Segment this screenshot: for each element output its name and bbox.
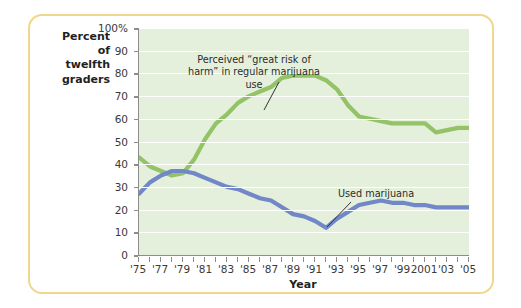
gridline	[139, 119, 469, 120]
x-axis-tick-mark	[281, 257, 282, 262]
x-axis-tick-mark	[391, 257, 392, 262]
x-axis-tick-label: '79	[174, 264, 190, 275]
x-axis-tick-label: '75	[130, 264, 146, 275]
annotation-perceived-risk: Perceived “great risk of harm” in regula…	[178, 54, 330, 91]
x-axis-tick-label: '95	[350, 264, 366, 275]
x-axis-tick-label: '03	[438, 264, 454, 275]
x-axis-tick-label: '89	[284, 264, 300, 275]
gridline	[139, 51, 469, 52]
y-axis-tick-label: 100%	[86, 23, 128, 33]
x-axis-tick-mark	[171, 257, 172, 262]
x-axis-tick-label: '85	[240, 264, 256, 275]
x-axis-tick-mark	[468, 257, 469, 262]
x-axis-tick-mark	[358, 257, 359, 262]
x-axis-tick-mark	[369, 257, 370, 262]
x-axis-tick-label: '81	[196, 264, 212, 275]
y-axis-tick-label: 70	[86, 91, 128, 101]
x-axis-tick-label: '05	[460, 264, 476, 275]
y-axis-tick-label: 30	[86, 182, 128, 192]
x-axis-tick-mark	[303, 257, 304, 262]
x-axis-tick-mark	[402, 257, 403, 262]
gridline	[139, 164, 469, 165]
x-axis-tick-label: '93	[328, 264, 344, 275]
x-axis-tick-mark	[325, 257, 326, 262]
x-axis-tick-mark	[193, 257, 194, 262]
x-axis-tick-mark	[457, 257, 458, 262]
x-axis-tick-mark	[237, 257, 238, 262]
x-axis-tick-mark	[215, 257, 216, 262]
chart-figure-frame: Percent of twelfth graders 0102030405060…	[28, 14, 494, 294]
x-axis-tick-mark	[292, 257, 293, 262]
x-axis-tick-mark	[182, 257, 183, 262]
x-axis-title: Year	[138, 278, 468, 291]
x-axis-tick-mark	[248, 257, 249, 262]
x-axis-tick-mark	[435, 257, 436, 262]
y-axis-tick-label: 40	[86, 159, 128, 169]
x-axis-tick-label: '83	[218, 264, 234, 275]
x-axis-tick-mark	[347, 257, 348, 262]
x-axis-tick-mark	[380, 257, 381, 262]
x-axis-tick-label: '91	[306, 264, 322, 275]
annotation-used-marijuana: Used marijuana	[326, 188, 426, 200]
x-axis-tick-mark	[446, 257, 447, 262]
gridline	[139, 210, 469, 211]
gridline	[139, 96, 469, 97]
y-axis-tick-label: 0	[86, 250, 128, 260]
x-axis-tick-mark	[314, 257, 315, 262]
x-axis-tick-label: '77	[152, 264, 168, 275]
gridline	[139, 28, 469, 29]
x-axis-tick-label: '99	[394, 264, 410, 275]
y-axis-tick-label: 90	[86, 46, 128, 56]
y-axis-tick-label: 20	[86, 205, 128, 215]
y-axis-tick-label: 50	[86, 137, 128, 147]
x-axis-tick-label: '97	[372, 264, 388, 275]
x-axis-tick-mark	[270, 257, 271, 262]
x-axis-tick-mark	[259, 257, 260, 262]
x-axis-tick-label: '87	[262, 264, 278, 275]
x-axis-tick-mark	[424, 257, 425, 262]
y-axis-tick-label: 80	[86, 68, 128, 78]
gridline	[139, 232, 469, 233]
x-axis-tick-mark	[204, 257, 205, 262]
x-axis-tick-mark	[138, 257, 139, 262]
x-axis-tick-mark	[336, 257, 337, 262]
x-axis-tick-mark	[413, 257, 414, 262]
y-axis-tick-label: 10	[86, 227, 128, 237]
x-axis-tick-mark	[149, 257, 150, 262]
x-axis-tick-mark	[226, 257, 227, 262]
x-axis-tick-label: 2001	[411, 264, 438, 275]
x-axis-tick-mark	[160, 257, 161, 262]
gridline	[139, 142, 469, 143]
y-axis-tick-label: 60	[86, 114, 128, 124]
